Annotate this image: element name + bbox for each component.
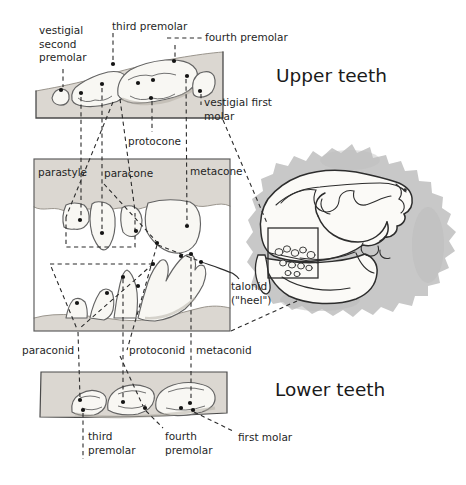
cusp-dot: [151, 78, 155, 82]
label-protoconid: protoconid: [129, 344, 185, 358]
cusp-dot: [75, 301, 79, 305]
shadow-shading-3: [320, 150, 380, 170]
occlusion-mid-tooth: [121, 206, 142, 237]
cusp-dot: [185, 74, 189, 78]
occlusion-paracone-tooth: [90, 202, 115, 250]
cusp-dot: [100, 82, 104, 86]
label-third-premolar-bottom: third premolar: [88, 430, 136, 457]
cusp-dot: [136, 81, 140, 85]
cusp-dot: [179, 406, 183, 410]
cusp-dot: [121, 400, 125, 404]
cusp-dot: [191, 408, 195, 412]
label-vestigial-second-premolar: vestigial second premolar: [39, 24, 87, 65]
cusp-dot: [121, 275, 125, 279]
cusp-dot: [198, 89, 202, 93]
heading-upper-teeth: Upper teeth: [276, 65, 387, 86]
leader-talonid-solid: [201, 262, 239, 279]
heading-lower-teeth: Lower teeth: [275, 379, 385, 400]
label-paraconid: paraconid: [22, 344, 74, 358]
cusp-dot: [155, 241, 159, 245]
label-fourth-premolar-top: fourth premolar: [205, 31, 288, 45]
cusp-dot: [105, 291, 109, 295]
occlusion-metacone-tooth: [145, 200, 200, 253]
cusp-dot: [149, 96, 153, 100]
cusp-dot: [81, 408, 85, 412]
cusp-dot: [78, 218, 82, 222]
occlusion-lower-tooth-3: [114, 270, 138, 318]
cusp-dot: [134, 229, 138, 233]
cusp-dot: [136, 284, 140, 288]
cusp-dot: [172, 59, 176, 63]
cusp-dot: [179, 254, 183, 258]
label-fourth-premolar-bottom: fourth premolar: [165, 430, 213, 457]
label-first-molar: first molar: [238, 431, 292, 445]
label-parastyle: parastyle: [38, 166, 87, 180]
label-metacone: metacone: [190, 165, 243, 179]
cusp-dot: [151, 262, 155, 266]
occlusion-upper-teeth: [63, 200, 201, 253]
label-vestigial-first-molar: vestigial first molar: [204, 96, 272, 123]
label-third-premolar-top: third premolar: [112, 20, 187, 34]
cusp-dot: [185, 224, 189, 228]
label-paracone: paracone: [104, 167, 153, 181]
occlusion-lower-tooth-2: [90, 289, 114, 320]
cusp-dot: [189, 252, 193, 256]
cusp-dot: [78, 398, 82, 402]
cusp-dot: [100, 231, 104, 235]
label-protocone: protocone: [128, 135, 181, 149]
shadow-shading-2: [412, 207, 444, 283]
label-talonid: talonid ("heel"): [231, 280, 271, 307]
cusp-dot: [111, 62, 115, 66]
label-metaconid: metaconid: [196, 344, 252, 358]
cusp-dot: [59, 88, 63, 92]
figure-canvas: [0, 0, 466, 485]
cusp-dot: [79, 91, 83, 95]
cusp-dot: [143, 406, 147, 410]
cusp-dot: [199, 260, 203, 264]
dentition-diagram: vestigial second premolar third premolar…: [0, 0, 466, 485]
cusp-dot: [188, 401, 192, 405]
